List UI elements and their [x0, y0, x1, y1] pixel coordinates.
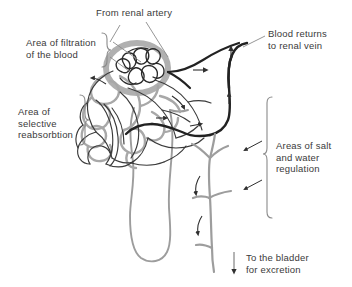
brace-left-salt [263, 97, 272, 218]
leader-arrow-salt [245, 141, 262, 189]
collecting-duct [192, 134, 231, 272]
label-area-of-selective-reabsorbtion: Area of selective reabsorbtion [18, 106, 73, 141]
label-areas-of-salt-and-water-regulation: Areas of salt and water regulation [276, 140, 331, 175]
leader-line-vein [243, 36, 265, 47]
convoluted-tubule [76, 71, 211, 167]
flow-arrow-duct [196, 176, 202, 234]
label-blood-returns-to-renal-vein: Blood returns to renal vein [268, 28, 327, 51]
label-to-the-bladder-for-excretion: To the bladder for excretion [246, 252, 309, 275]
nephron-diagram: From renal artery Area of filtration of … [0, 0, 352, 287]
label-area-of-filtration: Area of filtration of the blood [26, 37, 96, 60]
label-from-renal-artery: From renal artery [96, 7, 172, 19]
